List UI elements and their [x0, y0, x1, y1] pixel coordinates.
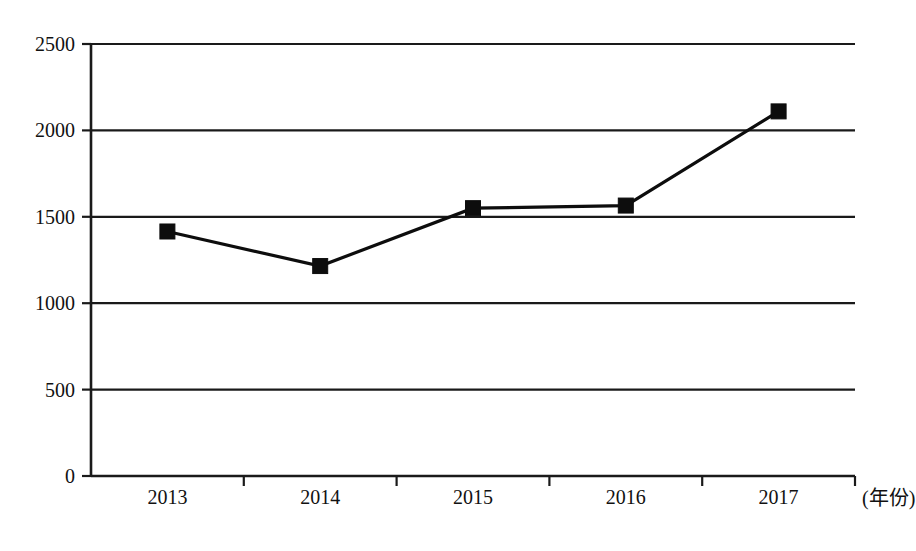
data-point-marker: [771, 104, 786, 119]
data-point-marker: [313, 259, 328, 274]
x-tick-label: 2016: [606, 486, 646, 508]
y-tick-label: 0: [65, 465, 75, 487]
data-point-marker: [618, 198, 633, 213]
chart-canvas: 05001000150020002500 2013201420152016201…: [0, 0, 916, 551]
y-tick-label: 2000: [35, 119, 75, 141]
data-point-marker: [466, 201, 481, 216]
x-tick-label: 2013: [147, 486, 187, 508]
x-tick-label: 2017: [759, 486, 799, 508]
x-tick-label: 2015: [453, 486, 493, 508]
x-tick-label: 2014: [300, 486, 340, 508]
x-axis-caption: (年份): [862, 487, 915, 510]
y-tick-label: 1500: [35, 206, 75, 228]
y-tick-label: 1000: [35, 292, 75, 314]
chart-background: [0, 0, 916, 551]
y-tick-label: 2500: [35, 33, 75, 55]
data-point-marker: [160, 224, 175, 239]
y-tick-label: 500: [45, 379, 75, 401]
line-chart: 05001000150020002500 2013201420152016201…: [0, 0, 916, 551]
